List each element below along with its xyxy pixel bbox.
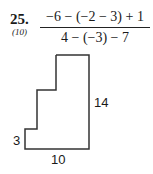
label-left-side: 3 [13, 133, 20, 148]
label-right-side: 14 [94, 95, 108, 110]
label-bottom-side: 10 [51, 152, 65, 167]
staircase-figure [0, 0, 153, 174]
